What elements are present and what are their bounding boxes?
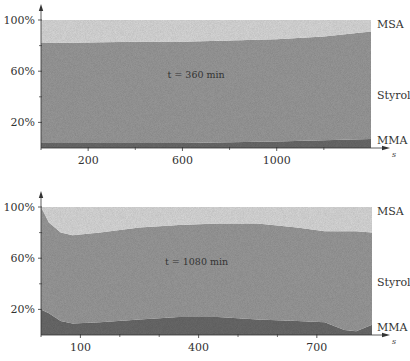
y-tick-label: 20% (11, 303, 35, 316)
x-tick-label: 600 (172, 154, 193, 167)
y-tick-label: 20% (11, 116, 35, 129)
chart-top-t360: 20%60%100%2006001000 t = 360 min MSA Sty… (4, 4, 410, 167)
y-tick-label: 60% (11, 252, 35, 265)
y-tick-label: 100% (4, 201, 35, 214)
legend-label-mma: MMA (377, 134, 409, 147)
annotation-time: t = 1080 min (165, 256, 228, 267)
area-styrol (41, 32, 371, 143)
legend-label-mma: MMA (377, 321, 409, 334)
y-tick-label: 60% (11, 65, 35, 78)
y-tick-label: 100% (4, 14, 35, 27)
x-tick-label: 200 (78, 154, 99, 167)
chart-bottom-t1080: 20%60%100%100400700 t = 1080 min MSA Sty… (4, 191, 410, 354)
y-axis-arrow-icon (39, 4, 43, 11)
x-tick-label: 1000 (263, 154, 291, 167)
x-tick-label: 400 (188, 341, 209, 354)
annotation-time: t = 360 min (168, 69, 225, 80)
legend-label-styrol: Styrol (377, 276, 410, 289)
legend-label-msa: MSA (377, 18, 405, 31)
x-tick-label: 700 (306, 341, 327, 354)
x-tick-label: 100 (70, 341, 91, 354)
x-axis-unit-label: s (392, 337, 396, 346)
legend-label-styrol: Styrol (377, 89, 410, 102)
figure: 20%60%100%2006001000 t = 360 min MSA Sty… (0, 0, 410, 361)
area-layers (41, 20, 371, 148)
area-layers (41, 207, 372, 335)
x-axis-unit-label: s (392, 150, 396, 159)
y-axis-arrow-icon (39, 191, 43, 198)
legend-label-msa: MSA (377, 205, 405, 218)
